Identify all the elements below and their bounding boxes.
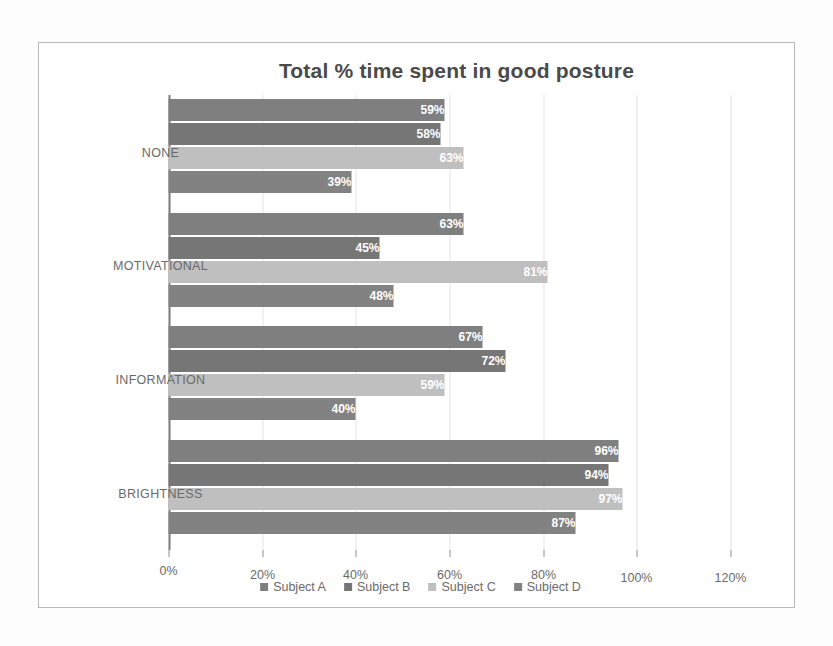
axis-tick bbox=[730, 550, 731, 557]
bar-value-label: 67% bbox=[463, 326, 477, 348]
axis-tick bbox=[262, 550, 263, 557]
bar-value-label-text: 63% bbox=[439, 151, 463, 165]
bar: 97% bbox=[168, 488, 622, 510]
bar-value-label-text: 97% bbox=[598, 492, 622, 506]
legend-item[interactable]: Subject A bbox=[260, 580, 326, 594]
bar-value-label-text: 81% bbox=[523, 265, 547, 279]
bar-value-label-text: 96% bbox=[594, 444, 618, 458]
bar-value-label: 94% bbox=[589, 464, 603, 486]
bar-value-label: 97% bbox=[603, 488, 617, 510]
axis-tick bbox=[168, 550, 169, 557]
bar-groups: 59%58%63%39%63%45%81%48%67%72%59%40%96%9… bbox=[168, 95, 730, 550]
bar: 87% bbox=[168, 512, 575, 534]
category-label-text: MOTIVATIONAL bbox=[113, 260, 208, 274]
chart-rotation-wrapper: Total % time spent in good posture 59%58… bbox=[39, 43, 796, 609]
bar-value-label: 96% bbox=[599, 440, 613, 462]
bar-value-label-text: 45% bbox=[355, 241, 379, 255]
bar-value-label-text: 72% bbox=[481, 354, 505, 368]
bar: 94% bbox=[168, 464, 608, 486]
bar-value-label: 63% bbox=[444, 213, 458, 235]
legend-item-label: Subject D bbox=[526, 580, 580, 594]
chart-title-text: Total % time spent in good posture bbox=[278, 59, 633, 83]
bar: 58% bbox=[168, 123, 440, 145]
chart-canvas: Total % time spent in good posture 59%58… bbox=[39, 43, 796, 609]
bar: 81% bbox=[168, 261, 547, 283]
bar-value-label: 63% bbox=[444, 147, 458, 169]
bar: 59% bbox=[168, 374, 444, 396]
chart-frame: Total % time spent in good posture 59%58… bbox=[38, 42, 795, 608]
bar-value-label: 58% bbox=[421, 123, 435, 145]
bar-value-label-text: 67% bbox=[458, 330, 482, 344]
bar: 63% bbox=[168, 147, 463, 169]
category-axis: NONEMOTIVATIONALINFORMATIONBRIGHTNESS bbox=[54, 95, 164, 550]
bar: 67% bbox=[168, 326, 482, 348]
bar: 48% bbox=[168, 285, 393, 307]
bar-value-label: 45% bbox=[360, 237, 374, 259]
axis-tick bbox=[636, 550, 637, 557]
chart-title: Total % time spent in good posture bbox=[176, 51, 736, 91]
legend-swatch-icon bbox=[513, 583, 521, 591]
bar-value-label-text: 59% bbox=[420, 103, 444, 117]
bar: 63% bbox=[168, 213, 463, 235]
legend-items: Subject ASubject BSubject CSubject D bbox=[260, 580, 581, 594]
bar-value-label: 59% bbox=[425, 374, 439, 396]
bar: 72% bbox=[168, 350, 505, 372]
chart-legend: Subject ASubject BSubject CSubject D bbox=[110, 567, 730, 607]
bar: 59% bbox=[168, 99, 444, 121]
legend-item[interactable]: Subject B bbox=[343, 580, 410, 594]
legend-item[interactable]: Subject C bbox=[428, 580, 495, 594]
category-label-text: INFORMATION bbox=[115, 373, 205, 387]
bar-value-label-text: 63% bbox=[439, 217, 463, 231]
category-label-text: NONE bbox=[141, 146, 178, 160]
legend-item-label: Subject C bbox=[441, 580, 495, 594]
bar-value-label: 40% bbox=[336, 398, 350, 420]
legend-item-label: Subject B bbox=[356, 580, 410, 594]
bar-value-label-text: 40% bbox=[331, 402, 355, 416]
bar-value-label: 39% bbox=[332, 171, 346, 193]
axis-tick bbox=[355, 550, 356, 557]
axis-tick bbox=[449, 550, 450, 557]
bar: 40% bbox=[168, 398, 355, 420]
bar: 39% bbox=[168, 171, 351, 193]
bar-value-label-text: 87% bbox=[551, 516, 575, 530]
bar-value-label: 48% bbox=[374, 285, 388, 307]
bar-value-label-text: 59% bbox=[420, 378, 444, 392]
legend-swatch-icon bbox=[260, 583, 268, 591]
bar-value-label-text: 48% bbox=[369, 289, 393, 303]
bar-value-label: 87% bbox=[556, 512, 570, 534]
bar-value-label-text: 94% bbox=[584, 468, 608, 482]
bar-value-label: 81% bbox=[528, 261, 542, 283]
plot-area: 59%58%63%39%63%45%81%48%67%72%59%40%96%9… bbox=[168, 95, 730, 550]
bar: 45% bbox=[168, 237, 379, 259]
bar-value-label-text: 58% bbox=[416, 127, 440, 141]
legend-swatch-icon bbox=[343, 583, 351, 591]
bar-value-label: 72% bbox=[486, 350, 500, 372]
category-label-text: BRIGHTNESS bbox=[118, 487, 202, 501]
legend-item[interactable]: Subject D bbox=[513, 580, 580, 594]
bar-value-label-text: 39% bbox=[327, 175, 351, 189]
axis-tick bbox=[543, 550, 544, 557]
legend-item-label: Subject A bbox=[273, 580, 326, 594]
bar: 96% bbox=[168, 440, 618, 462]
legend-swatch-icon bbox=[428, 583, 436, 591]
bar-value-label: 59% bbox=[425, 99, 439, 121]
chart-page: Total % time spent in good posture 59%58… bbox=[0, 0, 833, 646]
